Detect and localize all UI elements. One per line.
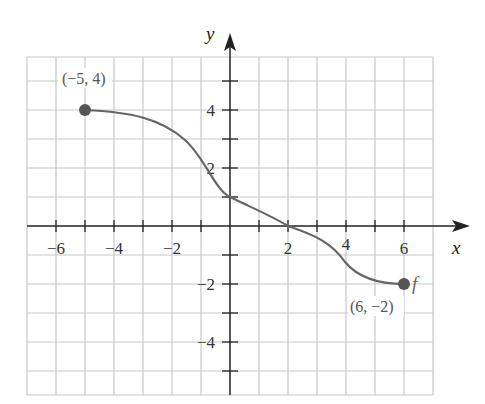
x-tick-label: 6 — [400, 239, 409, 258]
function-graph: −6 −4 −2 2 4 6 4 2 −2 −4 x y (−5, 4) (6,… — [0, 0, 485, 404]
end-point-marker — [398, 278, 410, 290]
start-point-marker — [79, 104, 91, 116]
x-axis-label: x — [451, 237, 461, 258]
y-tick-label: −2 — [197, 275, 215, 294]
start-point-label: (−5, 4) — [62, 70, 106, 88]
x-tick-label: 2 — [284, 239, 293, 258]
x-tick-label: 4 — [342, 235, 351, 254]
x-tick-label: −4 — [105, 239, 124, 258]
end-point-label: (6, −2) — [350, 298, 394, 316]
x-tick-label: −2 — [163, 239, 181, 258]
x-tick-label: −6 — [47, 239, 65, 258]
y-tick-label: −4 — [197, 333, 216, 352]
y-tick-label: 4 — [207, 101, 216, 120]
y-axis-label: y — [204, 23, 215, 44]
